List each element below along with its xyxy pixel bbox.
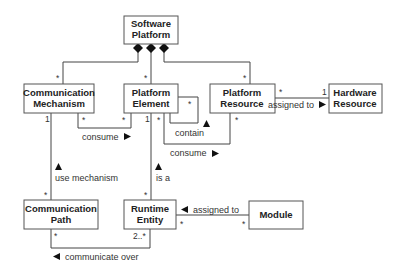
class-communication-path: Communication Path bbox=[24, 200, 98, 229]
multiplicity: * bbox=[144, 73, 148, 83]
multiplicity: 2..* bbox=[133, 231, 146, 241]
multiplicity: * bbox=[44, 190, 48, 200]
direction-left-icon bbox=[181, 206, 188, 213]
class-name-line: Path bbox=[51, 214, 72, 225]
multiplicity: * bbox=[54, 231, 58, 241]
class-name-line: Software bbox=[131, 18, 171, 29]
direction-right-icon bbox=[124, 133, 131, 140]
class-name-line: Platform bbox=[132, 87, 171, 98]
association-label-contain: contain bbox=[175, 128, 204, 138]
direction-right-icon bbox=[212, 150, 219, 157]
multiplicity: * bbox=[82, 115, 86, 125]
multiplicity: * bbox=[188, 99, 192, 109]
class-name-line: Communication bbox=[23, 87, 95, 98]
class-name-line: Element bbox=[133, 98, 171, 109]
class-platform-resource: Platform Resource bbox=[210, 84, 275, 113]
multiplicity: * bbox=[180, 219, 184, 229]
association-label-consume: consume bbox=[82, 132, 119, 142]
multiplicity: 1 bbox=[45, 114, 50, 124]
multiplicity: * bbox=[157, 115, 161, 125]
association-label-assigned-to: assigned to bbox=[268, 100, 314, 110]
class-name-line: Platform bbox=[132, 29, 171, 40]
class-platform-element: Platform Element bbox=[124, 84, 178, 113]
composition-edge-communication-mechanism bbox=[63, 52, 138, 84]
multiplicity: * bbox=[144, 190, 148, 200]
association-label-use-mechanism: use mechanism bbox=[55, 173, 118, 183]
association-label-communicate-over: communicate over bbox=[65, 252, 139, 262]
class-name-line: Communication bbox=[25, 203, 97, 214]
class-hardware-resource: Hardware Resource bbox=[329, 84, 382, 113]
direction-up-icon bbox=[203, 120, 210, 127]
direction-right-icon bbox=[319, 101, 326, 108]
composition-edge-platform-resource bbox=[164, 52, 250, 84]
class-name-line: Entity bbox=[137, 214, 164, 225]
class-name-line: Platform bbox=[223, 87, 262, 98]
association-label-consume: consume bbox=[170, 148, 207, 158]
association-label-is-a: is a bbox=[156, 173, 170, 183]
uml-diagram: Software Platform Communication Mechanis… bbox=[0, 0, 402, 275]
class-name-line: Mechanism bbox=[33, 98, 85, 109]
direction-left-icon bbox=[53, 253, 60, 260]
multiplicity: * bbox=[279, 87, 283, 97]
multiplicity: 1 bbox=[322, 87, 327, 97]
class-software-platform: Software Platform bbox=[124, 16, 178, 44]
multiplicity: * bbox=[122, 115, 126, 125]
class-name-line: Resource bbox=[220, 98, 263, 109]
class-name-line: Runtime bbox=[131, 203, 169, 214]
association-label-assigned-to: assigned to bbox=[193, 205, 239, 215]
multiplicity: 1 bbox=[145, 114, 150, 124]
direction-up-icon bbox=[155, 163, 162, 170]
multiplicity: * bbox=[243, 73, 247, 83]
class-name-line: Resource bbox=[333, 98, 376, 109]
multiplicity: * bbox=[242, 219, 246, 229]
class-communication-mechanism: Communication Mechanism bbox=[23, 84, 95, 113]
class-module: Module bbox=[249, 201, 303, 229]
class-name-line: Module bbox=[259, 209, 292, 220]
direction-up-icon bbox=[55, 163, 62, 170]
multiplicity: * bbox=[235, 115, 239, 125]
class-runtime-entity: Runtime Entity bbox=[124, 200, 176, 229]
class-name-line: Hardware bbox=[333, 87, 376, 98]
multiplicity: * bbox=[56, 73, 60, 83]
